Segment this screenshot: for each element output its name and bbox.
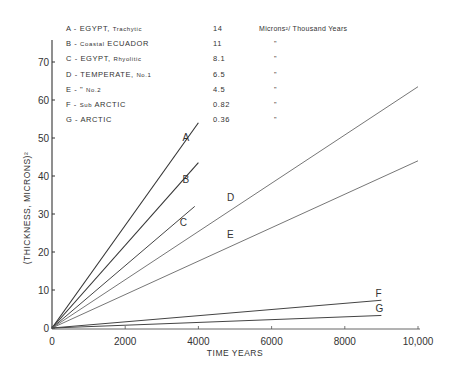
- x-tick-label: 6000: [260, 336, 283, 347]
- legend-rate-value: 4.5: [213, 82, 225, 97]
- legend-label: G - ARCTIC: [66, 112, 112, 127]
- y-tick-label: 10: [38, 285, 50, 296]
- legend-label: A - EGYPT, Trachytic: [66, 21, 142, 37]
- legend-label: D - TEMPERATE, No.1: [66, 67, 151, 83]
- series-line-a: [52, 123, 198, 328]
- legend-label: F - Sub ARCTIC: [66, 97, 126, 113]
- legend-rate-unit: ": [274, 36, 277, 51]
- legend-rate-value: 11: [213, 36, 222, 51]
- curve-label-d: D: [227, 192, 234, 203]
- legend-rate-unit: ": [274, 112, 277, 127]
- legend-rate-unit: ": [274, 51, 277, 66]
- legend-label: E - " No.2: [66, 82, 101, 98]
- series-line-f: [52, 300, 381, 328]
- series-line-c: [52, 206, 195, 328]
- curve-label-b: B: [182, 174, 189, 185]
- x-tick-label: 10,000: [403, 336, 434, 347]
- legend-label: B - Coastal ECUADOR: [66, 36, 149, 52]
- x-tick-label: 2000: [114, 336, 137, 347]
- legend-label: C - EGYPT, Rhyolitic: [66, 51, 142, 67]
- y-axis-title: (THICKNESS, MICRONS)²: [22, 152, 32, 265]
- series-line-e: [52, 161, 418, 328]
- x-tick-label: 8000: [334, 336, 357, 347]
- legend-rate-value: 14: [213, 21, 223, 36]
- legend-rate-value: 0.82: [213, 97, 230, 112]
- legend-rate-value: 6.5: [213, 67, 225, 82]
- curve-label-e: E: [227, 229, 234, 240]
- curve-label-f: F: [375, 288, 381, 299]
- y-tick-label: 20: [38, 247, 50, 258]
- y-tick-label: 0: [43, 323, 49, 334]
- y-tick-label: 70: [38, 57, 50, 68]
- y-tick-label: 40: [38, 171, 50, 182]
- y-tick-label: 60: [38, 95, 50, 106]
- y-tick-label: 30: [38, 209, 50, 220]
- series-line-b: [52, 163, 198, 328]
- legend-rate-unit: Microns²/ Thousand Years: [259, 21, 347, 36]
- curve-label-a: A: [182, 132, 189, 143]
- y-tick-label: 50: [38, 133, 50, 144]
- legend-rate-unit: ": [274, 82, 277, 97]
- legend-rate-value: 8.1: [213, 51, 225, 66]
- x-tick-label: 4000: [187, 336, 210, 347]
- curve-label-c: C: [180, 217, 187, 228]
- curve-label-g: G: [375, 303, 383, 314]
- legend-rate-value: 0.36: [213, 112, 230, 127]
- series-line-g: [52, 315, 381, 328]
- x-axis-title: TIME YEARS: [207, 348, 263, 358]
- legend-rate-unit: ": [274, 67, 277, 82]
- x-tick-label: 0: [49, 336, 55, 347]
- legend-rate-unit: ": [274, 97, 277, 112]
